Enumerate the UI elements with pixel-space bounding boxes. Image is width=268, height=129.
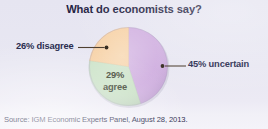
slice-label-agree: 29% agree	[103, 70, 127, 93]
slice-label-uncertain: 45% uncertain	[188, 59, 249, 69]
leader-dot-disagree	[105, 46, 109, 50]
source-note: Source: IGM Economic Experts Panel, Augu…	[4, 115, 187, 124]
leader-dot-uncertain	[161, 64, 165, 68]
pie-chart-figure: What do economists say?	[0, 0, 268, 129]
slice-label-agree-percent: 29%	[103, 70, 127, 82]
pie-shading-overlay	[90, 28, 168, 106]
slice-label-agree-word: agree	[103, 82, 127, 94]
slice-label-disagree: 26% disagree	[16, 41, 74, 51]
